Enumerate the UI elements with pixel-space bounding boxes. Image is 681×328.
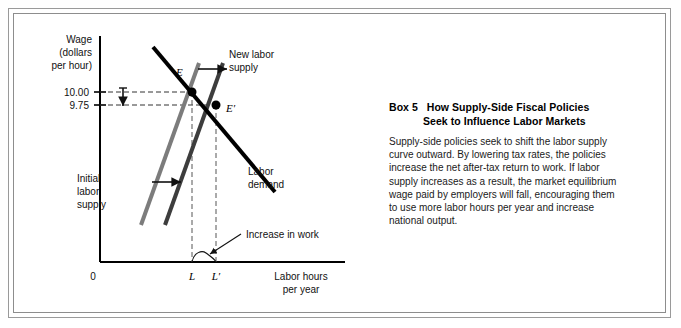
box-body-line-3: increase the net after-tax return to wor… — [389, 161, 641, 174]
initial-labor-supply-label-line-1: Initial — [77, 173, 100, 184]
labor-demand-label-line-1: Labor — [248, 166, 274, 177]
x-axis-title-line-1: Labor hours — [274, 271, 327, 282]
initial-labor-supply-label-line-2: labor — [77, 186, 100, 197]
equilibrium-label-E-prime: E′ — [225, 102, 236, 114]
x-tick-label-L-prime: L′ — [211, 270, 221, 282]
box-number: Box 5 — [389, 101, 418, 113]
box-body-line-7: national output. — [389, 214, 641, 227]
increase-in-work-brace — [192, 252, 216, 262]
y-axis-title-line-2: (dollars — [59, 47, 92, 58]
origin-label: 0 — [90, 271, 96, 282]
increase-in-work-leader — [210, 234, 241, 254]
new-labor-supply-label-line-2: supply — [229, 62, 258, 73]
box-title-line-1: How Supply-Side Fiscal Policies — [427, 101, 590, 113]
y-axis-title-line-1: Wage — [66, 34, 92, 45]
box-title-line-2: Seek to Influence Labor Markets — [389, 115, 641, 129]
equilibrium-label-E: E — [175, 66, 183, 78]
initial-labor-supply-curve — [141, 63, 199, 225]
supply-demand-chart: Wage (dollars per hour) 10.00 9.75 — [20, 20, 365, 310]
equilibrium-point-E-prime — [212, 101, 221, 110]
initial-labor-supply-label-line-3: supply — [77, 199, 106, 210]
y-tick-label-975: 9.75 — [70, 100, 90, 111]
increase-in-work-label: Increase in work — [246, 229, 320, 240]
x-axis-title-line-2: per year — [283, 284, 320, 295]
box-body: Supply-side policies seek to shift the l… — [389, 135, 641, 227]
box-body-line-1: Supply-side policies seek to shift the l… — [389, 135, 641, 148]
new-labor-supply-curve — [165, 63, 223, 225]
box-title-row-1: Box 5 How Supply-Side Fiscal Policies — [389, 101, 641, 115]
labor-demand-label-line-2: demand — [248, 179, 284, 190]
y-axis-title-line-3: per hour) — [51, 60, 92, 71]
graph-figure: Wage (dollars per hour) 10.00 9.75 — [20, 20, 365, 310]
box-title: Box 5 How Supply-Side Fiscal Policies Se… — [389, 101, 641, 128]
equilibrium-point-E — [188, 88, 197, 97]
figure-page: Wage (dollars per hour) 10.00 9.75 — [0, 0, 681, 328]
box-body-line-2: curve outward. By lowering tax rates, th… — [389, 148, 641, 161]
x-tick-label-L: L — [188, 270, 195, 282]
box-body-line-4: supply increases as a result, the market… — [389, 175, 641, 188]
new-labor-supply-label-line-1: New labor — [229, 49, 275, 60]
box-body-line-6: to use more labor hours per year and inc… — [389, 201, 641, 214]
y-tick-label-10: 10.00 — [64, 87, 89, 98]
box-panel: Box 5 How Supply-Side Fiscal Policies Se… — [389, 101, 641, 227]
box-body-line-5: wage paid by employers will fall, encour… — [389, 188, 641, 201]
